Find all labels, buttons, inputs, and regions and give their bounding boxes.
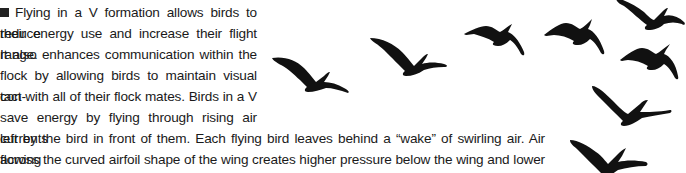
text-line-3: It also enhances communication within th… <box>0 44 257 65</box>
goose-silhouette-icon <box>462 18 532 58</box>
goose-silhouette-icon <box>568 138 652 173</box>
goose-silhouette-icon <box>614 0 686 32</box>
goose-silhouette-icon <box>270 52 352 94</box>
text-line-5: tact with all of their flock mates. Bird… <box>0 86 257 107</box>
goose-silhouette-icon <box>542 15 612 57</box>
square-bullet-icon <box>0 8 9 17</box>
goose-silhouette-icon <box>590 84 674 130</box>
text-line-9: sure above, and this difference in press… <box>0 170 545 173</box>
goose-silhouette-icon <box>368 34 450 78</box>
goose-silhouette-icon <box>618 40 684 82</box>
